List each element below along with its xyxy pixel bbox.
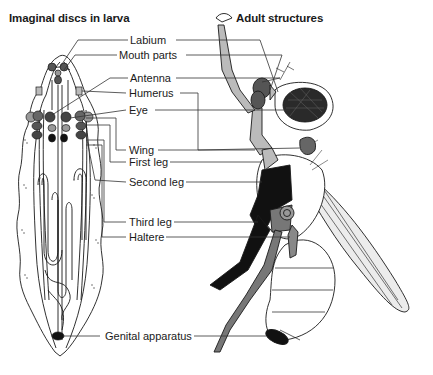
label-first-leg: First leg xyxy=(127,156,170,168)
label-mouth-parts: Mouth parts xyxy=(117,49,179,61)
label-third-leg: Third leg xyxy=(127,216,174,228)
diagram-canvas xyxy=(0,0,433,375)
adult-fly-illustration xyxy=(210,14,409,353)
larva-illustration xyxy=(17,55,103,356)
label-haltere: Haltere xyxy=(127,231,166,243)
label-labium: Labium xyxy=(128,34,168,46)
label-eye: Eye xyxy=(127,104,150,116)
label-genital-apparatus: Genital apparatus xyxy=(103,330,194,342)
adult-title: Adult structures xyxy=(236,12,323,24)
larva-title: Imaginal discs in larva xyxy=(9,12,129,24)
label-humerus: Humerus xyxy=(127,87,176,99)
label-wing: Wing xyxy=(127,144,156,156)
label-second-leg: Second leg xyxy=(127,176,186,188)
label-antenna: Antenna xyxy=(128,72,173,84)
